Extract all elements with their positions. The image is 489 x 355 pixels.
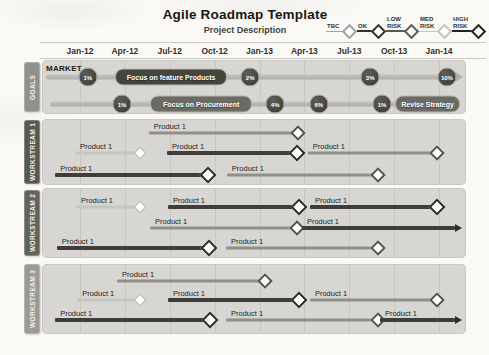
legend-item: TBC bbox=[326, 11, 355, 37]
legend-item-label: TBC bbox=[327, 23, 339, 30]
product-bar bbox=[77, 299, 136, 302]
goal-milestone-badge: 1% bbox=[78, 68, 97, 87]
product-bar bbox=[149, 132, 295, 135]
timeline-quarter-label: Jan-12 bbox=[67, 46, 94, 56]
product-label: Product 1 bbox=[313, 142, 345, 151]
product-label: Product 1 bbox=[315, 289, 347, 298]
product-bar bbox=[76, 206, 137, 209]
product-label: Product 1 bbox=[315, 196, 347, 205]
product-bar bbox=[302, 226, 455, 230]
legend-item-label: MED RISK bbox=[420, 16, 434, 29]
section-panel-workstream-2: Product 1Product 1Product 1Product 1Prod… bbox=[42, 188, 466, 258]
section-tab-label: WORKSTREAM 2 bbox=[24, 190, 40, 256]
milestone-diamond-icon bbox=[429, 145, 445, 161]
product-bar bbox=[57, 246, 206, 250]
product-bar bbox=[380, 318, 455, 322]
legend-item: MED RISK bbox=[419, 11, 450, 37]
timeline-quarter-label: Oct-13 bbox=[381, 46, 407, 56]
section-tab-label: WORKSTREAM 1 bbox=[24, 120, 40, 184]
legend-diamond-icon bbox=[371, 24, 387, 40]
goal-milestone-badge: 3% bbox=[361, 68, 380, 87]
milestone-diamond-icon bbox=[429, 199, 446, 216]
section-tab-workstream-3: WORKSTREAM 3 bbox=[24, 264, 40, 334]
timeline-quarter-label: Jan-14 bbox=[426, 46, 453, 56]
product-bar bbox=[227, 174, 375, 177]
milestone-diamond-icon bbox=[134, 147, 147, 160]
timeline-axis: Jan-12Apr-12Jul-12Oct-12Jan-13Apr-13Jul-… bbox=[40, 42, 486, 59]
product-label: Product 1 bbox=[173, 289, 205, 298]
product-bar bbox=[308, 152, 434, 155]
product-label: Product 1 bbox=[172, 142, 204, 151]
timeline-quarter-label: Apr-12 bbox=[111, 46, 138, 56]
goal-milestone-badge: 10% bbox=[437, 68, 456, 87]
goal-phase-pill: Focus on feature Products bbox=[115, 69, 227, 86]
product-label: Product 1 bbox=[154, 122, 186, 131]
product-bar bbox=[168, 298, 296, 302]
milestone-diamond-icon bbox=[288, 145, 305, 162]
milestone-diamond-icon bbox=[201, 312, 218, 329]
goal-milestone-badge: 6% bbox=[309, 95, 328, 114]
product-label: Product 1 bbox=[231, 237, 263, 246]
timeline-quarter-label: Jul-12 bbox=[157, 46, 182, 56]
section-tab-workstream-1: WORKSTREAM 1 bbox=[24, 120, 40, 184]
legend-item-label: OK bbox=[358, 23, 367, 30]
milestone-diamond-icon bbox=[370, 167, 386, 183]
section-tab-workstream-2: WORKSTREAM 2 bbox=[24, 190, 40, 256]
slide-canvas: Agile Roadmap Template Project Descripti… bbox=[0, 0, 489, 355]
product-label: Product 1 bbox=[60, 309, 92, 318]
timeline-quarter-label: Jul-13 bbox=[337, 46, 362, 56]
legend-item: OK bbox=[357, 11, 384, 37]
product-bar bbox=[55, 318, 206, 322]
timeline-quarter-label: Oct-12 bbox=[201, 46, 227, 56]
product-bar bbox=[226, 319, 374, 322]
goal-milestone-badge: 4% bbox=[266, 95, 285, 114]
product-label: Product 1 bbox=[62, 237, 94, 246]
legend-diamond-icon bbox=[471, 24, 487, 40]
product-bar bbox=[168, 205, 296, 209]
timeline-quarter-label: Apr-13 bbox=[291, 46, 318, 56]
product-label: Product 1 bbox=[231, 309, 263, 318]
product-label: Product 1 bbox=[385, 309, 417, 318]
product-label: Product 1 bbox=[122, 270, 154, 279]
product-label: Product 1 bbox=[80, 142, 112, 151]
market-label: MARKET bbox=[46, 64, 82, 73]
product-bar bbox=[310, 205, 434, 209]
product-bar bbox=[167, 151, 293, 155]
arrowhead-icon bbox=[455, 224, 462, 232]
goal-milestone-badge: 1% bbox=[113, 95, 132, 114]
goal-arrow-icon bbox=[455, 72, 463, 82]
product-label: Product 1 bbox=[232, 164, 264, 173]
product-label: Product 1 bbox=[155, 217, 187, 226]
product-label: Product 1 bbox=[307, 217, 339, 226]
milestone-diamond-icon bbox=[134, 294, 147, 307]
product-label: Product 1 bbox=[60, 164, 92, 173]
legend-item: HIGH RISK bbox=[452, 11, 484, 37]
timeline-quarter-label: Jan-13 bbox=[246, 46, 273, 56]
product-label: Product 1 bbox=[81, 196, 113, 205]
section-panel-workstream-3: Product 1Product 1Product 1Product 1Prod… bbox=[42, 264, 466, 334]
goal-milestone-badge: 1% bbox=[373, 95, 392, 114]
quarter-gridline bbox=[439, 188, 440, 258]
section-tab-goals: GOALS bbox=[24, 62, 40, 112]
milestone-diamond-icon bbox=[429, 292, 445, 308]
product-bar bbox=[75, 152, 136, 155]
goal-phase-pill: Revise Strategy bbox=[395, 96, 460, 113]
legend-diamond-icon bbox=[342, 24, 358, 40]
product-label: Product 1 bbox=[173, 196, 205, 205]
legend-item-label: LOW RISK bbox=[387, 16, 401, 29]
section-panel-goals: MARKETFocus on feature Products1%2%3%10%… bbox=[42, 60, 466, 114]
legend-diamond-icon bbox=[404, 24, 420, 40]
risk-legend: TBCOKLOW RISKMED RISKHIGH RISK bbox=[324, 9, 484, 37]
product-bar bbox=[117, 280, 262, 283]
product-bar bbox=[310, 299, 434, 302]
goal-phase-pill: Focus on Procurement bbox=[150, 96, 252, 113]
goal-milestone-badge: 2% bbox=[241, 68, 260, 87]
legend-item: LOW RISK bbox=[386, 11, 417, 37]
arrowhead-icon bbox=[455, 316, 462, 324]
section-panel-workstream-1: Product 1Product 1Product 1Product 1Prod… bbox=[42, 119, 466, 185]
quarter-gridline bbox=[394, 188, 395, 258]
product-bar bbox=[150, 227, 293, 230]
section-tab-label: WORKSTREAM 3 bbox=[24, 264, 40, 334]
product-bar bbox=[55, 173, 205, 177]
product-bar bbox=[226, 247, 374, 250]
